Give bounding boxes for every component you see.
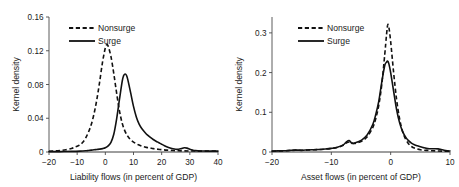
- x-tick-label: 0: [388, 158, 393, 167]
- legend-label-surge: Surge: [98, 36, 121, 46]
- y-tick-label: 0.2: [255, 69, 267, 78]
- x-tick-label: 0: [103, 158, 108, 167]
- density-curve-surge: [272, 61, 450, 151]
- y-axis-title: Kernel density: [234, 57, 244, 112]
- x-tick-label: −20: [42, 158, 56, 167]
- panel-liability-flows-svg: 00.040.080.120.16−20−10010203040Liabilit…: [0, 0, 229, 187]
- x-tick-label: 10: [445, 158, 455, 167]
- x-tick-label: −20: [265, 158, 279, 167]
- x-tick-label: −10: [324, 158, 338, 167]
- y-tick-label: 0.12: [28, 47, 44, 56]
- y-axis-title: Kernel density: [11, 57, 21, 112]
- y-tick-label: 0: [262, 148, 267, 157]
- panel-liability-flows: 00.040.080.120.16−20−10010203040Liabilit…: [0, 0, 229, 187]
- y-tick-label: 0.16: [28, 13, 44, 22]
- panel-asset-flows-svg: 00.10.20.3−20−10010Asset flows (in perce…: [229, 0, 459, 187]
- x-tick-label: −10: [70, 158, 84, 167]
- x-axis-title: Asset flows (in percent of GDP): [301, 172, 421, 182]
- legend-label-nonsurge: Nonsurge: [327, 23, 364, 33]
- x-tick-label: 10: [129, 158, 139, 167]
- density-curve-surge: [49, 74, 218, 152]
- density-curve-nonsurge: [272, 24, 450, 151]
- x-tick-label: 40: [213, 158, 223, 167]
- y-tick-label: 0.1: [255, 108, 267, 117]
- kernel-density-figure: 00.040.080.120.16−20−10010203040Liabilit…: [0, 0, 459, 187]
- y-tick-label: 0.3: [255, 29, 267, 38]
- panel-asset-flows: 00.10.20.3−20−10010Asset flows (in perce…: [229, 0, 458, 187]
- density-curve-nonsurge: [49, 45, 218, 152]
- x-axis-title: Liability flows (in percent of GDP): [70, 172, 197, 182]
- x-tick-label: 30: [185, 158, 195, 167]
- y-tick-label: 0.08: [28, 81, 44, 90]
- y-tick-label: 0: [39, 148, 44, 157]
- legend-label-surge: Surge: [327, 36, 350, 46]
- x-tick-label: 20: [157, 158, 167, 167]
- y-tick-label: 0.04: [28, 114, 44, 123]
- legend-label-nonsurge: Nonsurge: [98, 23, 135, 33]
